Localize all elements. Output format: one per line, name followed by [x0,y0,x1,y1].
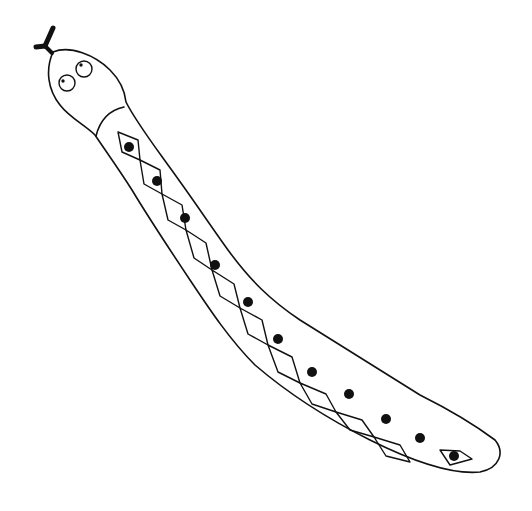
snake-illustration [0,0,532,511]
snake-body-outline [49,50,500,473]
eye-right [76,61,92,77]
forked-tongue-icon [36,28,53,53]
pattern-dots [124,142,459,461]
eyes [59,61,92,91]
neck-line [96,107,124,136]
eye-left [59,75,75,91]
diamond-pattern [118,132,472,466]
